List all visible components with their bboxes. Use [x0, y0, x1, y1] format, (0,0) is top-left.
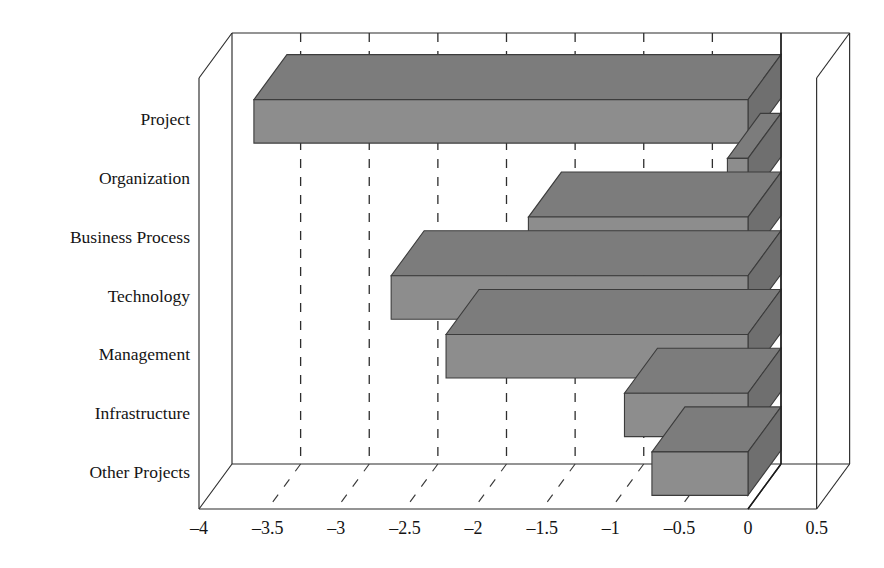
x-tick-label-1: –3.5	[251, 518, 284, 538]
category-axis-labels: ProjectOrganizationBusiness ProcessTechn…	[70, 109, 190, 481]
bar-series	[254, 55, 781, 496]
left-wall-bottom-diagonal	[199, 464, 232, 509]
gridline-floor-3	[405, 464, 438, 509]
x-tick-label-4: –2	[464, 518, 483, 538]
bar-chart-3d: ProjectOrganizationBusiness ProcessTechn…	[0, 0, 884, 568]
x-tick-label-2: –3	[326, 518, 345, 538]
bar-top-face	[254, 55, 781, 100]
category-label-2: Organization	[99, 168, 190, 188]
category-label-4: Technology	[108, 286, 191, 306]
x-tick-label-7: –0.5	[663, 518, 696, 538]
category-label-6: Infrastructure	[95, 403, 190, 423]
category-label-5: Management	[99, 344, 190, 364]
gridline-floor-4	[474, 464, 507, 509]
right-wall-top-diagonal	[817, 33, 850, 78]
x-tick-label-0: –4	[189, 518, 208, 538]
bar-1	[254, 55, 781, 143]
x-tick-label-9: 0.5	[805, 518, 828, 538]
x-tick-label-3: –2.5	[388, 518, 421, 538]
gridline-floor-1	[268, 464, 301, 509]
left-wall-top-diagonal	[199, 33, 232, 78]
x-tick-label-8: 0	[744, 518, 753, 538]
bar-top-face	[446, 289, 781, 334]
gridline-floor-5	[542, 464, 575, 509]
gridline-floor-6	[611, 464, 644, 509]
category-label-1: Project	[140, 109, 190, 129]
category-label-7: Other Projects	[89, 462, 190, 482]
category-label-3: Business Process	[70, 227, 190, 247]
bar-top-face	[528, 172, 781, 217]
bar-front-face	[652, 452, 748, 495]
bar-top-face	[391, 231, 781, 276]
chart-container: ProjectOrganizationBusiness ProcessTechn…	[0, 0, 884, 568]
right-wall-bottom-diagonal	[817, 464, 850, 509]
x-tick-label-6: –1	[601, 518, 620, 538]
gridline-floor-2	[336, 464, 369, 509]
x-tick-label-5: –1.5	[525, 518, 558, 538]
value-axis-tick-labels: –4–3.5–3–2.5–2–1.5–1–0.500.5	[189, 518, 828, 538]
bar-front-face	[254, 100, 748, 143]
